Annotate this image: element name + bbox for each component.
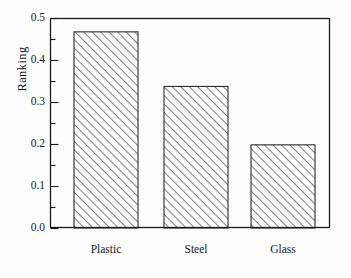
bar-plastic [74, 32, 138, 228]
bars-group [74, 32, 315, 228]
bar-glass [251, 145, 315, 228]
chart-figure: Ranking 0.00.10.20.30.40.5 PlasticSteelG… [0, 0, 351, 278]
axis-ticks [51, 19, 59, 229]
plot-area [0, 0, 351, 278]
bar-steel [164, 86, 228, 228]
